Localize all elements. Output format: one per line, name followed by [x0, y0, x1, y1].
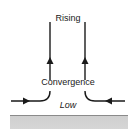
convergence-diagram: Rising Convergence Low	[0, 0, 136, 132]
convergence-label: Convergence	[0, 77, 136, 87]
rising-label: Rising	[0, 13, 136, 23]
left-up-arrow-icon	[47, 57, 54, 64]
low-label: Low	[0, 100, 136, 110]
right-up-arrow-icon	[82, 57, 89, 64]
ground-surface	[10, 115, 128, 129]
